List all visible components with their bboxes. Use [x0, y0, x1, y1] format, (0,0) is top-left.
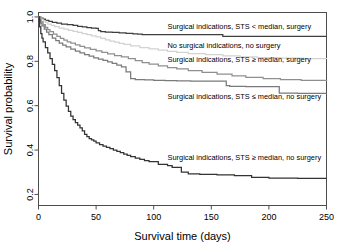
y-tick-label: 0.4	[26, 144, 36, 157]
curve-label-3: Surgical indications, STS ≤ median, no s…	[168, 92, 322, 101]
curve-label-0: Surgical indications, STS < median, surg…	[168, 22, 312, 31]
x-tick-label: 250	[319, 212, 334, 222]
kaplan-meier-plot: 050100150200250 0.20.40.60.81.0 Surgical…	[0, 0, 340, 247]
curve-label-2: Surgical indications, STS ≥ median, surg…	[168, 55, 312, 64]
y-axis-ticks: 0.20.40.60.81.0	[26, 11, 39, 201]
y-tick-label: 0.6	[26, 99, 36, 112]
curve-label-1: No surgical indications, no surgery	[168, 41, 281, 50]
y-tick-label: 1.0	[26, 11, 36, 24]
y-tick-label: 0.8	[26, 55, 36, 68]
y-axis-title: Survival probability	[2, 62, 14, 155]
survival-curve-figure: 050100150200250 0.20.40.60.81.0 Surgical…	[0, 0, 340, 247]
x-tick-label: 150	[204, 212, 219, 222]
x-axis-ticks: 050100150200250	[36, 206, 334, 222]
y-tick-label: 0.2	[26, 188, 36, 201]
curve-annotations: Surgical indications, STS < median, surg…	[168, 22, 322, 162]
x-tick-label: 0	[36, 212, 41, 222]
x-axis-title: Survival time (days)	[134, 230, 231, 242]
curve-label-4: Surgical indications, STS ≥ median, no s…	[168, 153, 322, 162]
x-tick-label: 100	[146, 212, 161, 222]
x-tick-label: 50	[91, 212, 101, 222]
x-tick-label: 200	[261, 212, 276, 222]
